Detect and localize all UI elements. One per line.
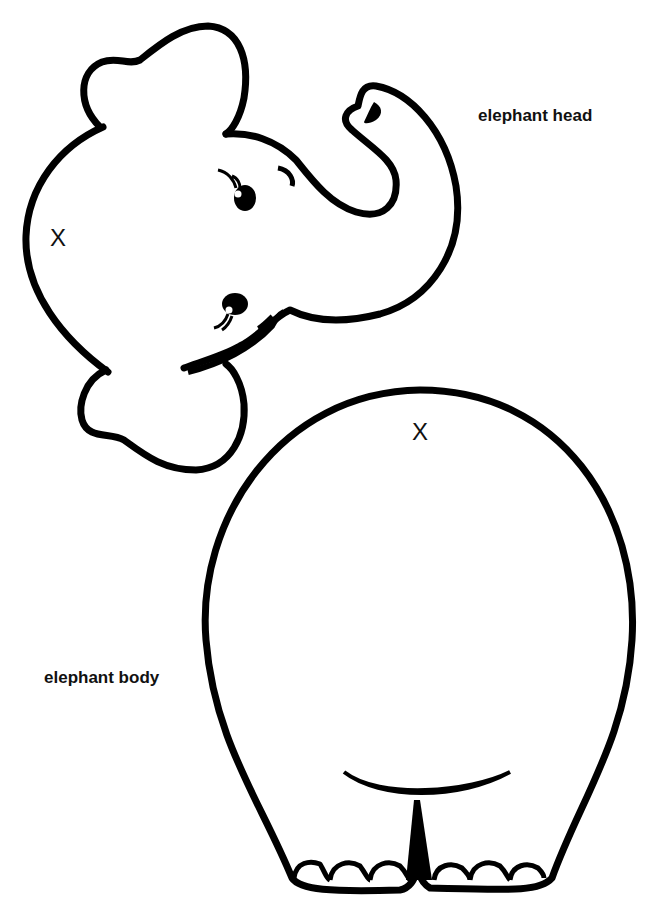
trunk-crease	[278, 168, 292, 186]
head-eyes	[188, 102, 381, 372]
body-x-marker: X	[412, 420, 428, 444]
left-toes	[294, 862, 410, 880]
head-top-ear	[84, 26, 246, 134]
upper-eye	[234, 185, 256, 211]
elephant-body-label: elephant body	[44, 668, 159, 688]
right-toes	[434, 863, 544, 880]
elephant-head	[26, 26, 458, 470]
elephant-cutout-art	[0, 0, 656, 915]
head-outline	[26, 127, 108, 372]
leg-split	[406, 800, 432, 880]
trunk-nostril	[364, 102, 381, 123]
belly-curve	[344, 772, 510, 793]
head-x-marker: X	[50, 226, 66, 250]
head-bottom-ear	[81, 364, 244, 470]
elephant-head-label: elephant head	[478, 106, 592, 126]
lower-eye	[222, 293, 248, 315]
